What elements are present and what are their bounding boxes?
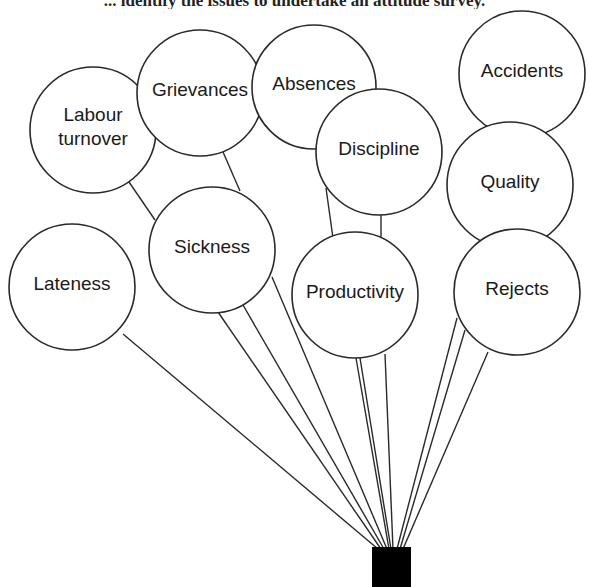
balloon-label: Absences xyxy=(272,73,355,94)
balloon-label: Grievances xyxy=(152,79,248,100)
balloon-label: Productivity xyxy=(306,281,405,302)
issue-balloon-diagram: ... identify the issues to undertake an … xyxy=(0,0,589,587)
balloon-lateness: Lateness xyxy=(9,224,135,350)
string-labour-turnover xyxy=(129,182,155,220)
balloons: LabourturnoverGrievancesAbsencesDiscipli… xyxy=(9,11,585,358)
string-rejects xyxy=(397,318,457,549)
string-rejects xyxy=(403,352,488,549)
balloon-productivity: Productivity xyxy=(292,232,418,358)
balloon-label: Quality xyxy=(480,171,540,192)
balloon-label: Labour xyxy=(63,104,123,125)
string-grievances xyxy=(223,152,240,191)
balloon-grievances: Grievances xyxy=(137,30,263,156)
balloon-diagram-svg: LabourturnoverGrievancesAbsencesDiscipli… xyxy=(0,0,589,587)
balloon-sickness: Sickness xyxy=(149,187,275,313)
balloon-label: Sickness xyxy=(174,236,250,257)
balloon-discipline: Discipline xyxy=(316,89,442,215)
balloon-label: turnover xyxy=(58,128,128,149)
balloon-label: Discipline xyxy=(338,138,419,159)
balloon-accidents: Accidents xyxy=(459,11,585,137)
string-discipline xyxy=(326,188,333,238)
string-rejects xyxy=(400,330,465,549)
string-lateness xyxy=(123,334,378,549)
balloon-label: Rejects xyxy=(485,278,548,299)
anchor-box xyxy=(372,547,411,587)
balloon-label: Accidents xyxy=(481,60,563,81)
caption-text: ... identify the issues to undertake an … xyxy=(0,0,589,9)
balloon-label: Lateness xyxy=(33,273,110,294)
balloon-rejects: Rejects xyxy=(454,229,580,355)
